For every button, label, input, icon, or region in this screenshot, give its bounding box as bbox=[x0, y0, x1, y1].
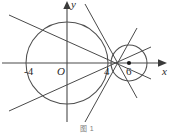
y-axis-label: y bbox=[71, 0, 76, 10]
figure-caption: 图 1 bbox=[0, 123, 174, 133]
origin-label: O bbox=[57, 66, 65, 77]
x-tick-label-4: 4 bbox=[104, 66, 110, 77]
y-axis-arrowhead bbox=[63, 1, 70, 9]
x-tick-label-neg4: -4 bbox=[24, 66, 33, 77]
figure-container: -4 O 4 6 x y 图 1 bbox=[0, 0, 174, 134]
x-axis-label: x bbox=[162, 66, 167, 77]
upper-internal-tangent-line bbox=[85, 4, 137, 98]
x-tick-label-6: 6 bbox=[126, 66, 132, 77]
